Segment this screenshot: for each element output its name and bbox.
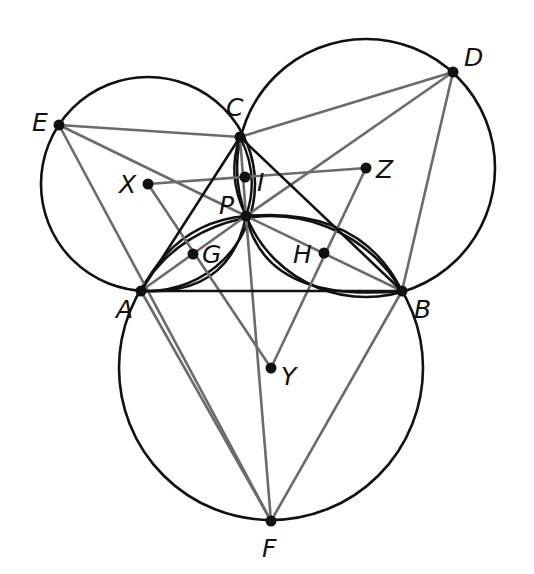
point-D — [448, 67, 459, 78]
label-X: X — [117, 170, 137, 199]
point-X — [143, 179, 154, 190]
label-F: F — [262, 534, 277, 563]
point-Z — [361, 163, 372, 174]
segment-DP — [246, 72, 453, 216]
point-A — [136, 286, 147, 297]
segment-DB — [402, 72, 453, 291]
label-E: E — [32, 108, 48, 137]
point-H — [319, 248, 330, 259]
point-Y — [266, 363, 277, 374]
point-C — [235, 132, 246, 143]
label-P: P — [219, 191, 235, 220]
point-E — [54, 120, 65, 131]
label-C: C — [226, 93, 244, 122]
point-I — [240, 172, 251, 183]
label-I: I — [257, 168, 264, 197]
segment-EC — [59, 125, 240, 137]
point-F — [266, 516, 277, 527]
segment-DC — [240, 72, 453, 137]
label-A: A — [114, 295, 133, 324]
label-B: B — [414, 295, 431, 324]
circles-group — [41, 39, 495, 520]
geometry-diagram: A B C D E F G H I P X Y Z — [0, 0, 534, 574]
label-D: D — [464, 43, 483, 72]
point-B — [397, 286, 408, 297]
lens-arcs-group — [141, 137, 402, 293]
label-G: G — [202, 240, 221, 269]
point-P — [241, 211, 252, 222]
segment-FA — [141, 291, 271, 521]
label-Z: Z — [375, 155, 394, 184]
diagram-canvas: A B C D E F G H I P X Y Z — [0, 0, 534, 574]
label-Y: Y — [281, 362, 298, 391]
label-H: H — [293, 240, 312, 269]
point-G — [188, 249, 199, 260]
labels-group: A B C D E F G H I P X Y Z — [32, 43, 483, 563]
